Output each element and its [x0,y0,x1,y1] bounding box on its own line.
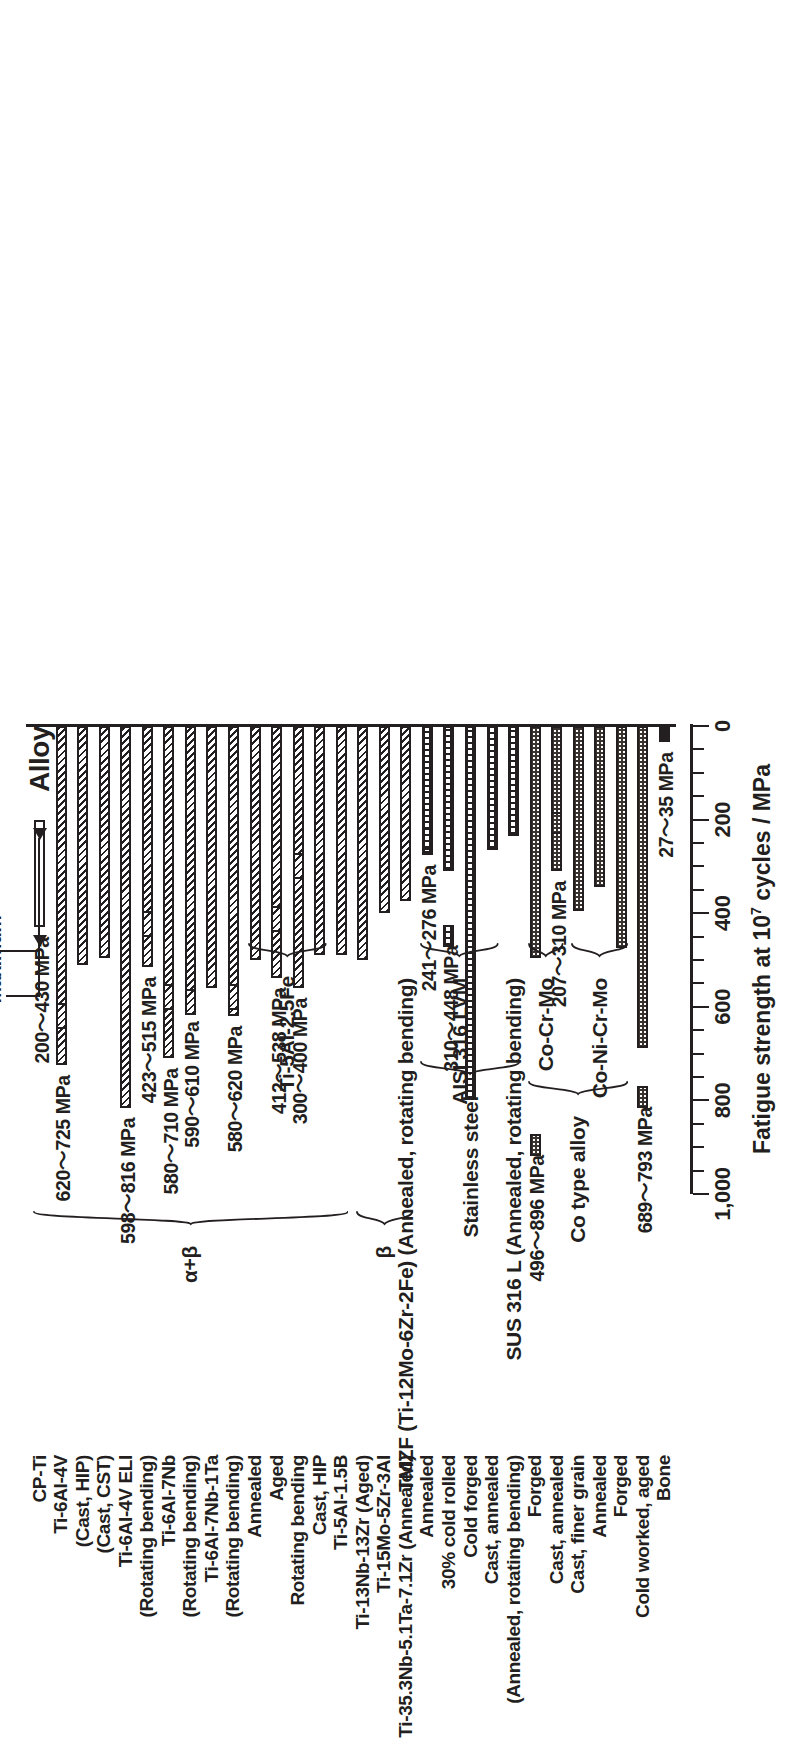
category-tick-label: Ti-15Mo-5Zr-3Al [373,1455,395,1593]
category-tick-label: Cast, annealed [481,1455,503,1584]
group-brace [571,942,628,958]
category-tick-label: Cold worked, aged [632,1455,654,1618]
category-tick-label: Annealed [416,1455,438,1538]
group-brace [420,942,499,958]
category-tick-label: Cast, HIP [309,1455,331,1535]
category-tick-label: Annealed [589,1455,611,1538]
category-tick-label: (Rotating bending) [136,1455,158,1618]
category-tick-label: (Annealed, rotating bending) [503,1455,525,1704]
legend-minimum-arrowhead [33,828,47,840]
category-tick-label: Ti-5Al-1.5B [330,1455,352,1550]
group-brace [33,1210,349,1226]
group-brace [248,942,327,958]
legend-minimum-leader-horizontal [38,838,40,952]
axis-tick-major [693,725,709,727]
category-tick-label: (Rotating bending) [179,1455,201,1618]
group-brace [356,1210,413,1226]
category-tick-label: Forged [610,1455,632,1517]
category-tick-label: Cold forged [460,1455,482,1558]
legend-maximum-leader-horizontal [38,945,40,997]
category-tick-label: (Rotating bending) [222,1455,244,1618]
group-brace [528,1080,628,1096]
category-tick-label: Ti-6Al-4V ELI [115,1455,137,1567]
group-label: β [372,1246,396,1259]
category-tick-label: 30% cold rolled [438,1455,460,1589]
group-label: α+β [178,1246,202,1283]
group-brace [420,1060,520,1076]
category-tick-label: (Cast, HIP) [72,1455,94,1547]
category-tick-label: CP-Ti [29,1455,51,1503]
group-label: SUS 316 L (Annealed, rotating bending) [502,978,526,1361]
category-tick-label: Ti-13Nb-13Zr (Aged) [352,1455,374,1630]
group-label: Ti-5Al-2.5Fe [275,976,299,1091]
group-label: TMZF (Ti-12Mo-6Zr-2Fe) (Annealed, rotati… [394,978,418,1492]
category-tick-label: Cast, finer grain [567,1455,589,1594]
category-tick-label: Bone [653,1455,675,1501]
group-label: Co-Cr-Mo [534,978,558,1071]
legend-maximum-leader-vertical [6,995,40,997]
category-tick-label: Rotating bending [287,1455,309,1606]
legend-minimum-leader-vertical [0,950,40,952]
category-tick-label: Ti-6Al-7Nb [158,1455,180,1546]
legend-maximum-arrowhead [33,935,47,947]
category-tick-label: Cast, annealed [546,1455,568,1584]
category-tick-label: Aged [266,1455,288,1501]
category-label-row: Bone [664,1455,686,1501]
category-tick-label: (Cast, CST) [93,1455,115,1554]
group-label: Stainless steel [459,1096,483,1237]
legend-maximum-label: Maximum [0,915,5,1003]
category-tick-label: Forged [524,1455,546,1517]
category-tick-label: Ti-35.3Nb-5.1Ta-7.1Zr (Annealed) [395,1455,417,1738]
group-label: AISI 316 LVM [448,978,472,1105]
category-tick-label: Annealed [244,1455,266,1538]
group-label: Co type alloy [566,1116,590,1243]
group-brace [528,942,564,958]
category-tick-label: Ti-6Al-7Nb-1Ta [201,1455,223,1582]
category-tick-label: Ti-6Al-4V [50,1455,72,1534]
